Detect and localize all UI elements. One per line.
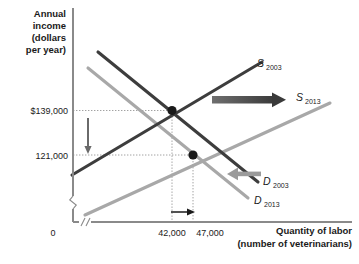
y-axis-title-line-2: income [33,20,66,31]
y-tick-label-121000: 121,000 [35,151,68,161]
equilibrium-point-initial [167,106,176,115]
y-axis-title-line-1: Annual [34,8,66,19]
chart-svg: Annual income (dollars per year) Quantit… [0,0,359,264]
y-tick-label-139000: $139,000 [30,106,68,116]
y-axis-title-line-3: (dollars [32,32,66,43]
y-axis-title-line-4: per year) [26,44,66,55]
origin-label: 0 [50,228,55,238]
curve-label-S2013-base: S [296,91,303,103]
x-axis-title-line-2: (number of veterinarians) [237,238,352,249]
curve-label-S2013-sub: 2013 [305,98,321,105]
x-tick-label-42000: 42,000 [158,228,186,238]
equilibrium-point-new [188,150,197,159]
curve-label-D2013-base: D [254,194,262,206]
curve-label-D2003-base: D [263,175,271,187]
supply-demand-chart: Annual income (dollars per year) Quantit… [0,0,359,264]
curve-label-D2003-sub: 2003 [273,182,289,189]
curve-label-S2003-base: S [257,57,264,69]
curve-label-S2003-sub: 2003 [266,64,282,71]
x-tick-label-47000: 47,000 [196,228,224,238]
x-axis-title-line-1: Quantity of labor [276,225,352,236]
curve-label-D2013-sub: 2013 [264,201,280,208]
